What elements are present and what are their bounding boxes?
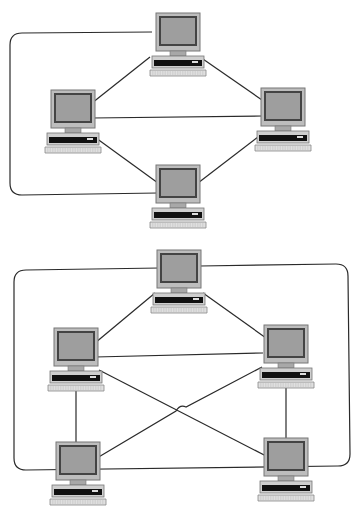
computer-icon — [45, 90, 101, 153]
computer-icon — [258, 325, 314, 388]
computer-icon — [255, 88, 311, 151]
link-left-bottomright — [99, 370, 268, 457]
link-top-left — [92, 57, 150, 103]
link-top-left — [95, 293, 155, 343]
diagram-2-computers — [48, 250, 314, 505]
link-top-right — [200, 57, 262, 100]
link-top-right — [203, 293, 266, 338]
computer-icon — [150, 165, 206, 228]
diagram-1-computers — [45, 13, 311, 228]
link-left-bottom — [96, 138, 158, 183]
diagram-1-links — [10, 32, 262, 195]
computer-icon — [258, 438, 314, 501]
computer-icon — [50, 442, 106, 505]
network-diagram — [0, 0, 360, 514]
link-right-bottomleft — [97, 367, 262, 458]
link-left-right — [95, 353, 263, 357]
computer-icon — [150, 13, 206, 76]
computer-icon — [151, 250, 207, 313]
link-left-right — [92, 116, 262, 118]
computer-icon — [48, 328, 104, 391]
link-right-bottom — [198, 137, 258, 183]
